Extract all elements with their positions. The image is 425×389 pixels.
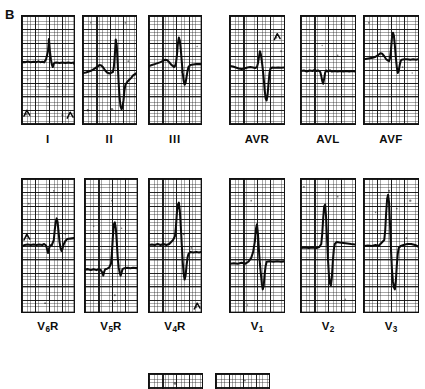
ecg-calibration-mark [194, 303, 200, 309]
ecg-waveform-trace [149, 203, 201, 280]
ecg-waveform-trace [230, 51, 284, 100]
ecg-paper-artifact [337, 54, 339, 56]
ecg-paper-artifact [111, 200, 113, 202]
ecg-trace-layer [22, 16, 74, 124]
ecg-strip-lead-AVL [300, 15, 356, 125]
lead-label-subscript: 6 [45, 325, 50, 334]
ecg-paper-artifact [183, 233, 185, 235]
ecg-waveform-trace [230, 224, 284, 289]
ecg-paper-artifact [250, 200, 252, 202]
ecg-waveform-trace [83, 40, 136, 110]
ecg-trace-layer [83, 16, 136, 124]
ecg-trace-layer [149, 16, 201, 124]
ecg-paper-artifact [406, 237, 408, 239]
ecg-paper-artifact [27, 79, 29, 81]
lead-label-lead-V1: V1 [229, 320, 285, 334]
lead-label-text: AVL [316, 133, 339, 145]
ecg-waveform-trace [364, 33, 418, 73]
ecg-trace-layer [301, 16, 355, 124]
ecg-trace-layer [216, 374, 269, 389]
lead-label-subscript: 1 [259, 325, 264, 334]
ecg-paper-artifact [61, 114, 63, 116]
ecg-strip-lead-III [148, 15, 202, 125]
ecg-waveform-trace [85, 222, 137, 275]
ecg-waveform-trace [149, 38, 201, 85]
ecg-paper-artifact [114, 300, 116, 302]
ecg-trace-layer [230, 16, 284, 124]
lead-label-suffix: R [50, 320, 59, 332]
ecg-paper-artifact [247, 304, 249, 306]
ecg-paper-artifact [90, 22, 92, 24]
lead-label-subscript: 3 [393, 325, 398, 334]
ecg-paper-artifact [111, 108, 114, 111]
ecg-strip-clipped-panel-left [148, 373, 203, 389]
ecg-paper-artifact [244, 380, 246, 382]
lead-label-text: I [46, 133, 50, 145]
ecg-paper-artifact [47, 86, 49, 88]
ecg-strip-lead-V4R [148, 178, 202, 313]
lead-label-base: V [251, 320, 259, 332]
ecg-strip-lead-I [21, 15, 75, 125]
ecg-paper-artifact [280, 50, 282, 52]
lead-label-lead-V2: V2 [300, 320, 356, 334]
ecg-paper-artifact [412, 72, 413, 73]
ecg-paper-artifact [322, 45, 323, 46]
ecg-paper-artifact [121, 227, 123, 229]
lead-label-suffix: R [177, 320, 186, 332]
ecg-paper-artifact [28, 203, 30, 205]
lead-label-text: AVF [379, 133, 402, 145]
lead-label-subscript: 2 [330, 325, 335, 334]
ecg-paper-artifact [181, 71, 183, 73]
lead-label-subscript: 5 [108, 325, 113, 334]
lead-label-lead-III: III [148, 133, 202, 145]
lead-label-text: II [106, 133, 114, 145]
ecg-trace-layer [149, 374, 202, 389]
figure-panel-letter: B [5, 8, 14, 21]
ecg-waveform-trace [22, 218, 74, 252]
ecg-paper-artifact [396, 208, 398, 210]
ecg-calibration-mark [24, 110, 30, 116]
ecg-strip-lead-V5R [84, 178, 138, 313]
lead-label-text: III [169, 133, 181, 145]
ecg-paper-artifact [53, 190, 55, 192]
ecg-strip-lead-V3 [363, 178, 419, 313]
ecg-strip-lead-AVF [363, 15, 419, 125]
ecg-paper-artifact [87, 109, 89, 111]
ecg-paper-artifact [375, 212, 377, 214]
ecg-figure-panel-b: B IIIIIIAVRAVLAVFV6RV5RV4RV1V2V3 [0, 0, 425, 389]
lead-label-lead-V5R: V5R [84, 320, 138, 334]
ecg-waveform-trace [364, 195, 418, 290]
ecg-waveform-trace [22, 39, 74, 67]
ecg-paper-artifact [191, 247, 193, 249]
ecg-trace-layer [85, 179, 137, 312]
lead-label-suffix: R [113, 320, 122, 332]
ecg-strip-lead-II [82, 15, 137, 125]
ecg-calibration-mark [274, 34, 280, 40]
ecg-paper-artifact [253, 239, 255, 241]
ecg-paper-artifact [345, 298, 347, 300]
ecg-paper-artifact [341, 23, 343, 25]
lead-label-lead-V6R: V6R [21, 320, 75, 334]
ecg-paper-artifact [44, 302, 46, 304]
ecg-paper-artifact [127, 60, 129, 62]
ecg-strip-lead-AVR [229, 15, 285, 125]
ecg-strip-lead-V2 [300, 178, 356, 313]
lead-label-lead-AVF: AVF [363, 133, 419, 145]
ecg-paper-artifact [337, 196, 339, 198]
lead-label-lead-I: I [21, 133, 75, 145]
ecg-paper-artifact [65, 233, 67, 235]
ecg-paper-artifact [114, 294, 116, 296]
ecg-paper-artifact [368, 22, 370, 24]
ecg-trace-layer [364, 16, 418, 124]
lead-label-lead-V4R: V4R [148, 320, 202, 334]
lead-label-base: V [385, 320, 393, 332]
ecg-trace-layer [301, 179, 355, 312]
ecg-paper-artifact [303, 186, 305, 188]
ecg-trace-layer [22, 179, 74, 312]
lead-label-subscript: 4 [172, 325, 177, 334]
ecg-trace-layer [230, 179, 284, 312]
ecg-paper-artifact [124, 22, 126, 24]
ecg-waveform-trace [301, 205, 355, 286]
ecg-calibration-mark [67, 112, 73, 118]
ecg-paper-artifact [189, 70, 191, 72]
